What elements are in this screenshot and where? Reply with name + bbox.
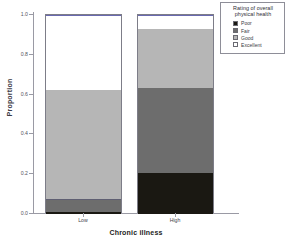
legend-swatch-fair-icon: [233, 28, 238, 33]
y-tick-label-0.6: 0.6: [0, 91, 28, 97]
bar-high-segment-fair: [138, 88, 213, 174]
y-tick-0.8: [29, 54, 34, 55]
bar-low-segment-excellent: [46, 15, 121, 90]
bar-low-top-edge: [46, 15, 121, 16]
stacked-bar-chart: Proportion 1.0 0.8 0.6 0.4 0.2 0.0: [0, 0, 287, 243]
y-tick-label-0.4: 0.4: [0, 130, 28, 136]
bar-high-segment-excellent: [138, 15, 213, 29]
bar-high-top-edge: [138, 15, 213, 16]
bar-high-segment-poor: [138, 173, 213, 214]
y-tick-label-0.2: 0.2: [0, 170, 28, 176]
legend-items: Poor Fair Good Excellent: [224, 20, 282, 49]
y-tick-label-1.0: 1.0: [0, 11, 28, 17]
x-tick-label-high: High: [150, 217, 200, 223]
y-tick-0.2: [29, 173, 34, 174]
y-tick-label-0.0: 0.0: [0, 210, 28, 216]
legend-item-good[interactable]: Good: [233, 34, 282, 41]
legend-swatch-excellent-icon: [233, 42, 238, 47]
legend: Rating of overall physical health Poor F…: [220, 2, 285, 54]
legend-item-fair[interactable]: Fair: [233, 27, 282, 34]
legend-swatch-good-icon: [233, 35, 238, 40]
legend-swatch-poor-icon: [233, 21, 238, 26]
y-tick-0.4: [29, 133, 34, 134]
y-tick-1.0: [29, 14, 34, 15]
legend-title-line-2: physical health: [224, 11, 282, 17]
legend-label-good: Good: [241, 35, 253, 41]
y-tick-0.0: [29, 213, 34, 214]
legend-label-excellent: Excellent: [241, 42, 262, 48]
x-tick-label-low: Low: [58, 217, 108, 223]
y-axis-line: [33, 12, 34, 214]
legend-label-poor: Poor: [241, 20, 252, 26]
legend-label-fair: Fair: [241, 28, 250, 34]
x-axis-title: Chronic illness: [33, 229, 239, 236]
legend-item-excellent[interactable]: Excellent: [233, 41, 282, 48]
bar-high-segment-good: [138, 29, 213, 88]
bar-high[interactable]: [137, 14, 214, 213]
bar-low-segment-fair: [46, 199, 121, 212]
bar-low-divider-good-fair: [46, 199, 121, 200]
bar-low-segment-good: [46, 90, 121, 199]
bar-low[interactable]: [45, 14, 122, 213]
legend-item-poor[interactable]: Poor: [233, 20, 282, 27]
y-tick-label-0.8: 0.8: [0, 51, 28, 57]
y-tick-0.6: [29, 94, 34, 95]
legend-title: Rating of overall physical health: [224, 5, 282, 18]
